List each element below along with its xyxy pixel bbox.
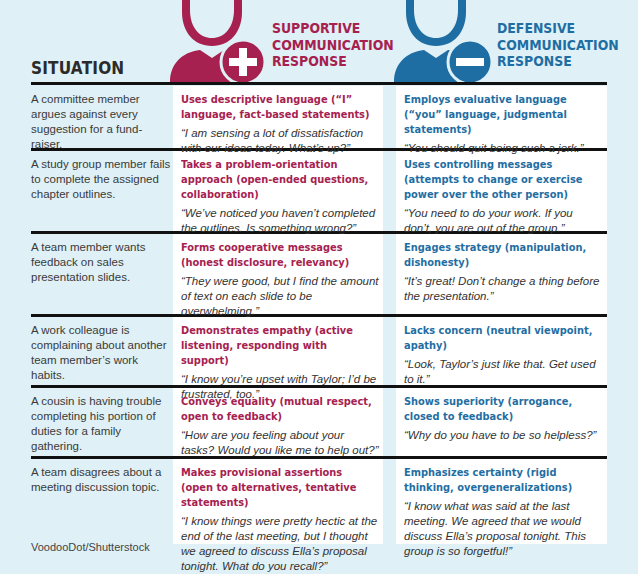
- supportive-example: “We’ve noticed you haven’t completed the…: [181, 206, 379, 236]
- defensive-cell: Engages strategy (manipulation, dishones…: [404, 240, 604, 304]
- defensive-cell: Shows superiority (arrogance, closed to …: [404, 394, 604, 443]
- defensive-example: “It’s great! Don’t change a thing before…: [404, 274, 604, 304]
- supportive-cell: Takes a problem-orientation approach (op…: [181, 157, 379, 236]
- situation-text: A study group member fails to complete t…: [31, 157, 171, 202]
- supportive-strategy: Demonstrates empathy (active listening, …: [181, 323, 376, 368]
- defensive-example: “You should quit being such a jerk.”: [404, 141, 604, 156]
- supportive-example: “I am sensing a lot of dissatisfaction w…: [181, 126, 379, 156]
- supportive-cell: Makes provisional assertions (open to al…: [181, 465, 379, 574]
- supportive-example: “I know things were pretty hectic at the…: [181, 514, 379, 574]
- supportive-heading-line1: SUPPORTIVE: [272, 20, 394, 37]
- supportive-heading-line2: COMMUNICATION: [272, 37, 394, 54]
- situation-text: A team disagrees about a meeting discuss…: [31, 465, 171, 495]
- supportive-cell: Uses descriptive language (“I” language,…: [181, 92, 379, 156]
- supportive-strategy: Takes a problem-orientation approach (op…: [181, 157, 376, 202]
- defensive-heading-line2: COMMUNICATION: [497, 37, 619, 54]
- defensive-strategy: Shows superiority (arrogance, closed to …: [404, 394, 601, 424]
- situation-text: A team member wants feedback on sales pr…: [31, 240, 171, 285]
- defensive-cell: Lacks concern (neutral viewpoint, apathy…: [404, 323, 604, 387]
- situation-column-heading: SITUATION: [31, 58, 124, 78]
- defensive-example: “I know what was said at the last meetin…: [404, 499, 604, 559]
- defensive-cell: Employs evaluative language (“you” langu…: [404, 92, 604, 156]
- defensive-heading-line1: DEFENSIVE: [497, 20, 619, 37]
- supportive-strategy: Uses descriptive language (“I” language,…: [181, 92, 376, 122]
- image-credit: VoodooDot/Shutterstock: [31, 541, 150, 553]
- supportive-strategy: Conveys equality (mutual respect, open t…: [181, 394, 376, 424]
- defensive-strategy: Emphasizes certainty (rigid thinking, ov…: [404, 465, 601, 495]
- supportive-example: “How are you feeling about your tasks? W…: [181, 428, 379, 458]
- supportive-cell: Conveys equality (mutual respect, open t…: [181, 394, 379, 458]
- person-plus-icon: [160, 0, 272, 82]
- situation-text: A committee member argues against every …: [31, 92, 171, 152]
- situation-text: A cousin is having trouble completing hi…: [31, 394, 171, 454]
- defensive-example: “Look, Taylor’s just like that. Get used…: [404, 357, 604, 387]
- defensive-cell: Uses controlling messages (attempts to c…: [404, 157, 604, 236]
- defensive-strategy: Lacks concern (neutral viewpoint, apathy…: [404, 323, 601, 353]
- supportive-heading-line3: RESPONSE: [272, 53, 394, 70]
- defensive-example: “You need to do your work. If you don’t,…: [404, 206, 604, 236]
- defensive-heading-line3: RESPONSE: [497, 53, 619, 70]
- supportive-example: “They were good, but I find the amount o…: [181, 274, 379, 319]
- defensive-column-heading: DEFENSIVE COMMUNICATION RESPONSE: [497, 20, 619, 70]
- supportive-strategy: Forms cooperative messages (honest discl…: [181, 240, 376, 270]
- supportive-column-heading: SUPPORTIVE COMMUNICATION RESPONSE: [272, 20, 394, 70]
- situation-text: A work colleague is complaining about an…: [31, 323, 171, 383]
- person-minus-icon: [384, 0, 496, 82]
- defensive-example: “Why do you have to be so helpless?”: [404, 428, 604, 443]
- defensive-strategy: Engages strategy (manipulation, dishones…: [404, 240, 601, 270]
- defensive-cell: Emphasizes certainty (rigid thinking, ov…: [404, 465, 604, 559]
- supportive-cell: Forms cooperative messages (honest discl…: [181, 240, 379, 319]
- defensive-strategy: Employs evaluative language (“you” langu…: [404, 92, 601, 137]
- defensive-strategy: Uses controlling messages (attempts to c…: [404, 157, 601, 202]
- header-divider: [31, 82, 607, 85]
- supportive-strategy: Makes provisional assertions (open to al…: [181, 465, 376, 510]
- supportive-cell: Demonstrates empathy (active listening, …: [181, 323, 379, 402]
